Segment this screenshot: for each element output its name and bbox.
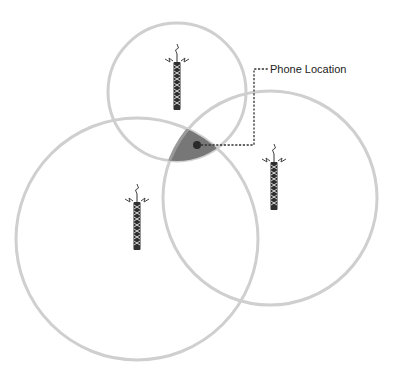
phone-location-label: Phone Location: [270, 63, 346, 75]
triangulation-diagram: Phone Location: [0, 0, 398, 374]
cell-tower-icon: [262, 144, 286, 210]
cell-tower-icon: [125, 184, 149, 250]
cell-tower-icon: [165, 44, 189, 110]
right-coverage-ring: [163, 91, 377, 305]
phone-location-dot: [193, 141, 201, 149]
